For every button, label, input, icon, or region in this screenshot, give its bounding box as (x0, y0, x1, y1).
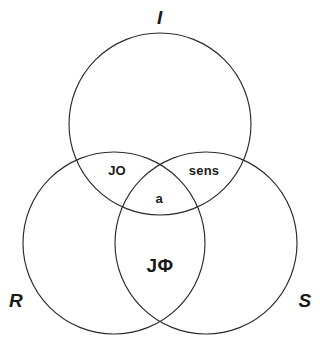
venn-circle-s (115, 152, 297, 334)
venn-circle-i (69, 33, 251, 215)
venn-circles-group (0, 0, 320, 343)
set-label-r: R (9, 291, 23, 310)
venn-circle-r (23, 152, 205, 334)
region-label-jo: JO (108, 164, 126, 177)
venn-diagram: I R S JO sens a JΦ (0, 0, 320, 343)
set-label-s: S (298, 291, 311, 310)
region-label-sens: sens (189, 164, 219, 177)
region-label-a: a (155, 192, 162, 205)
region-label-j-phi: JΦ (147, 256, 174, 275)
set-label-i: I (157, 8, 163, 27)
